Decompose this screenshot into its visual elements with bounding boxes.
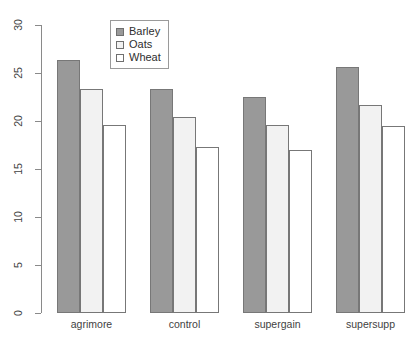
y-axis-tick-label-text: 15 bbox=[12, 155, 24, 183]
legend-item-wheat: Wheat bbox=[116, 51, 161, 64]
y-axis-tick-label-text: 20 bbox=[12, 107, 24, 135]
x-axis-label-control: control bbox=[136, 318, 233, 330]
bar-barley-agrimore bbox=[57, 60, 80, 313]
bar-wheat-supergain bbox=[289, 150, 312, 313]
y-axis-tick-label: 15 bbox=[4, 163, 32, 175]
y-axis-tick-label: 30 bbox=[4, 19, 32, 31]
y-axis-tick-label: 10 bbox=[4, 211, 32, 223]
bar-wheat-control bbox=[196, 147, 219, 313]
legend-swatch-icon bbox=[116, 28, 124, 36]
x-axis-label-supergain: supergain bbox=[229, 318, 326, 330]
y-axis-tick-label-text: 30 bbox=[12, 11, 24, 39]
bar-barley-control bbox=[150, 89, 173, 313]
y-axis-tick-label: 5 bbox=[4, 259, 32, 271]
legend-swatch-icon bbox=[116, 54, 124, 62]
y-axis-tick-label: 25 bbox=[4, 67, 32, 79]
legend-label: Wheat bbox=[129, 51, 161, 64]
bar-oats-agrimore bbox=[80, 89, 103, 313]
bar-oats-supergain bbox=[266, 125, 289, 313]
legend-swatch-icon bbox=[116, 41, 124, 49]
y-axis-tick bbox=[35, 313, 41, 314]
bar-wheat-agrimore bbox=[103, 125, 126, 313]
bar-oats-control bbox=[173, 117, 196, 313]
legend-item-barley: Barley bbox=[116, 25, 161, 38]
legend-label: Barley bbox=[129, 25, 160, 38]
bar-barley-supersupp bbox=[336, 67, 359, 313]
legend-label: Oats bbox=[129, 38, 152, 51]
y-axis-tick-label-text: 5 bbox=[12, 251, 24, 279]
plot-area bbox=[41, 25, 359, 313]
y-axis-tick-label-text: 25 bbox=[12, 59, 24, 87]
y-axis-tick-label-text: 10 bbox=[12, 203, 24, 231]
legend: BarleyOatsWheat bbox=[110, 20, 169, 69]
x-axis-label-supersupp: supersupp bbox=[322, 318, 409, 330]
bar-wheat-supersupp bbox=[382, 126, 405, 313]
bar-oats-supersupp bbox=[359, 105, 382, 313]
y-axis-tick-label: 20 bbox=[4, 115, 32, 127]
x-axis-label-agrimore: agrimore bbox=[43, 318, 140, 330]
y-axis-tick-label: 0 bbox=[4, 307, 32, 319]
legend-item-oats: Oats bbox=[116, 38, 161, 51]
bar-barley-supergain bbox=[243, 97, 266, 313]
y-axis-tick-label-text: 0 bbox=[12, 299, 24, 327]
